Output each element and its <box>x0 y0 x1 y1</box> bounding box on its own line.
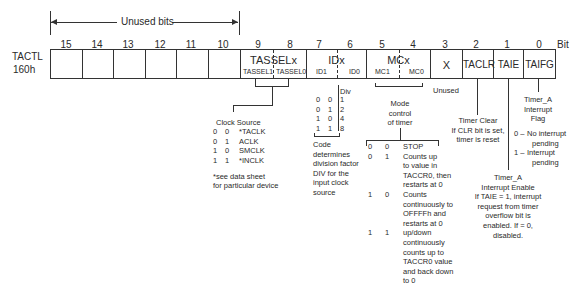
divider-row: 118 <box>316 124 344 134</box>
taie-leader <box>508 79 509 170</box>
bit-cell-13 <box>113 49 145 79</box>
divider-table: 001 012 104 118 <box>316 95 344 133</box>
interrupt-flag-title: Timer_A Interrupt Flag <box>518 95 558 124</box>
register-address: 160h <box>13 65 35 75</box>
field-taclr-name: TACLR <box>463 59 493 70</box>
register-name: TACTL <box>12 52 43 62</box>
tassel-bracket-left <box>255 79 256 86</box>
tassel-bracket-right <box>288 79 289 86</box>
mode-leader <box>400 128 401 140</box>
mode-bracket-left <box>366 140 367 146</box>
clock-source-row: 01ACLK <box>213 137 266 147</box>
tassel-leader-down <box>233 105 234 112</box>
clock-source-row: 00*TACLK <box>213 127 266 137</box>
clock-source-row: 10SMCLK <box>213 146 266 156</box>
field-divider <box>399 50 400 78</box>
bit-cell-15 <box>50 49 82 79</box>
unused-bits-arrow-left <box>51 22 117 23</box>
arrowhead-right-icon <box>232 19 238 25</box>
mode-brace-icon <box>375 83 423 87</box>
divider-row: 001 <box>316 95 344 105</box>
bit-label: Bit <box>557 40 569 50</box>
field-tassel1-label: TASSEL1 <box>243 68 273 75</box>
field-id0-label: ID0 <box>349 68 360 75</box>
interrupt-flag-option-1: 1 –Interruptpending <box>514 148 566 167</box>
unused-bits-label: Unused bits <box>121 17 174 27</box>
field-mcx: MCx MC1 MC0 <box>366 49 430 79</box>
field-divider <box>337 50 338 78</box>
field-x: X <box>430 49 462 79</box>
field-taifg-name: TAIFG <box>524 59 555 70</box>
field-taie: TAIE <box>493 49 523 79</box>
mode-control-title: Mode control of timer <box>380 99 420 128</box>
field-x-name: X <box>431 59 462 71</box>
mode-control-table: 00STOP 01Counts upto value inTACCR0, the… <box>368 142 453 284</box>
field-mc1-label: MC1 <box>375 68 390 75</box>
field-tasselx: TASSELx TASSEL1 TASSEL0 <box>240 49 306 79</box>
mode-bracket-top <box>366 140 439 141</box>
divider-row: 012 <box>316 105 344 115</box>
mode-row: 00STOP <box>368 142 453 152</box>
mode-row: 11up/downcontinuouslycounts up toTACCR0 … <box>368 228 453 284</box>
bit-cell-12 <box>145 49 176 79</box>
mode-row: 10Countscontinuously toOFFFFh andrestart… <box>368 190 453 228</box>
bit-cell-10 <box>208 49 240 79</box>
clock-source-row: 11*INCLK <box>213 156 266 166</box>
field-taclr: TACLR <box>462 49 493 79</box>
tassel-leader-vertical <box>272 86 273 106</box>
field-mc0-label: MC0 <box>409 68 424 75</box>
field-idx: IDx ID1 ID0 <box>306 49 366 79</box>
interrupt-enable-description: Timer_A Interrupt Enable If TAIE = 1, in… <box>465 173 551 240</box>
unused-bits-arrow-right <box>172 22 238 23</box>
field-tassel0-label: TASSEL0 <box>276 68 306 75</box>
taifg-leader <box>538 79 539 92</box>
field-id1-label: ID1 <box>316 68 327 75</box>
taclr-leader <box>477 79 478 115</box>
arrowhead-left-icon <box>51 19 57 25</box>
unused-bits-right-tick <box>239 11 240 35</box>
timer-clear-description: Timer Clear If CLR bit is set, timer is … <box>447 116 509 145</box>
clock-source-note-2: for particular device <box>213 181 278 191</box>
bit-cell-11 <box>176 49 208 79</box>
interrupt-flag-option-0: 0 –No interruptpending <box>514 129 566 148</box>
div-brace-icon <box>314 133 340 137</box>
bit-cell-14 <box>82 49 113 79</box>
interrupt-flag-options: 0 –No interruptpending 1 –Interruptpendi… <box>514 129 566 167</box>
field-divider <box>273 50 274 78</box>
divider-row: 104 <box>316 114 344 124</box>
mode-row: 01Counts upto value inTACCR0, thenrestar… <box>368 152 453 190</box>
field-taifg: TAIFG <box>523 49 556 79</box>
tassel-leader-horizontal <box>233 105 273 106</box>
field-taie-name: TAIE <box>494 59 523 70</box>
unused-label: Unused <box>433 86 459 96</box>
clock-source-table: 00*TACLK 01ACLK 10SMCLK 11*INCLK <box>213 127 266 165</box>
divider-description: Code determines division factor DIV for … <box>313 140 359 198</box>
